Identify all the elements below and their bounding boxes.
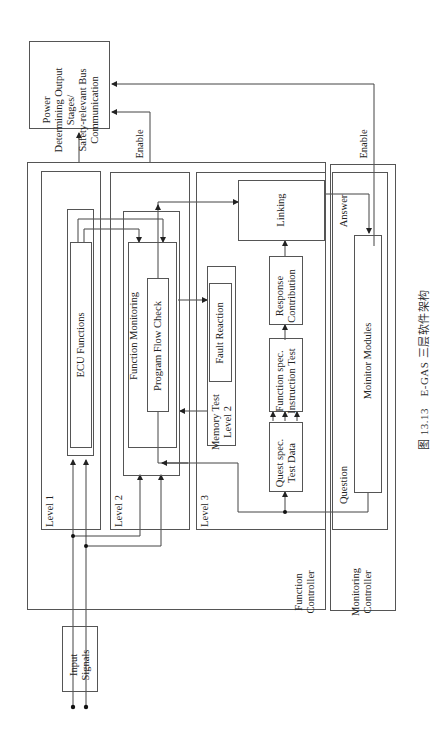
enable-label-fc: Enable <box>134 124 146 164</box>
input-signals-label: Input Signals <box>68 640 92 690</box>
level-2-label: Level 2 <box>113 491 125 531</box>
level-3-label: Level 3 <box>199 491 211 531</box>
memory-test-label: Memory Test Level 2 <box>210 392 234 452</box>
monitoring-controller-label: Monitoring Controller <box>350 557 374 627</box>
function-controller-label: Function Controller <box>293 557 317 627</box>
response-line-1: Response <box>274 266 286 326</box>
response-contribution-label: Response Contribution <box>274 266 298 326</box>
monitor-modules-label: Moinitor Modules <box>362 311 374 411</box>
enable-label-mc: Enable <box>358 124 370 164</box>
response-line-2: Contribution <box>286 266 298 326</box>
figure-caption: 图 13.13 E-GAS 三层软件架构 <box>415 290 431 450</box>
mc-line-2: Controller <box>362 557 374 627</box>
mc-line-1: Monitoring <box>350 557 362 627</box>
answer-label: Answer <box>338 189 350 233</box>
memory-test-line-1: Memory Test <box>210 392 222 452</box>
quest-spec-line-2: Test Data <box>286 428 298 498</box>
program-flow-check-label: Program Flow Check <box>152 291 164 401</box>
function-spec-line-1: Function spec. <box>274 341 286 421</box>
level-1-label: Level 1 <box>44 491 56 531</box>
function-monitoring-label: Function Monitoring <box>128 281 140 391</box>
ecu-functions-label: ECU Functions <box>75 295 87 395</box>
memory-test-line-2: Level 2 <box>222 392 234 452</box>
fc-line-2: Controller <box>305 557 317 627</box>
input-line-1: Input <box>68 640 80 690</box>
output-stages-block: Power Determining Output Stages/ Safety-… <box>29 41 110 129</box>
quest-spec-line-1: Quest spec. <box>274 428 286 498</box>
linking-label: Linking <box>275 190 287 230</box>
fc-line-1: Function <box>293 557 305 627</box>
quest-spec-label: Quest spec. Test Data <box>274 428 298 498</box>
question-label: Question <box>338 457 350 513</box>
function-spec-line-2: Instruction Test <box>286 341 298 421</box>
fault-reaction-label: Fault Reaction <box>214 293 226 373</box>
function-spec-label: Function spec. Instruction Test <box>274 341 298 421</box>
input-line-2: Signals <box>80 640 92 690</box>
